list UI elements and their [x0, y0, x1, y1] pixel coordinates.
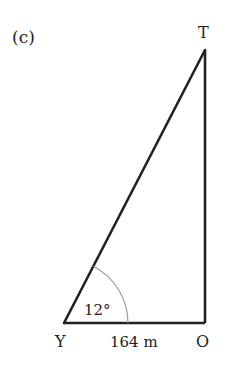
angle-label: 12°: [84, 301, 111, 319]
vertex-label-o: O: [196, 332, 209, 351]
vertex-label-y: Y: [54, 332, 66, 351]
side-yt: [64, 50, 205, 323]
part-label: (c): [12, 27, 35, 47]
vertex-label-t: T: [198, 23, 209, 42]
base-length-label: 164 m: [110, 333, 158, 351]
triangle-diagram: (c) T Y O 12° 164 m: [0, 0, 230, 366]
